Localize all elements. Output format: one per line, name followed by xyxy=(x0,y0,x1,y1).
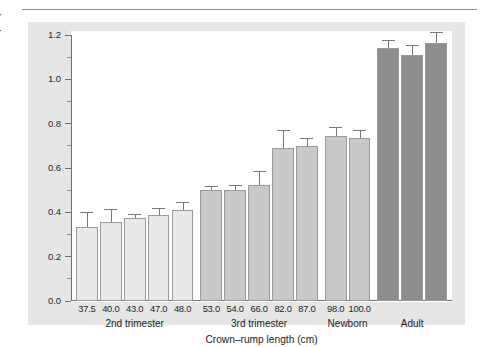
error-bar-cap xyxy=(430,32,443,33)
error-bar-cap xyxy=(176,202,189,203)
error-bar-whisker xyxy=(111,210,112,222)
bar[interactable] xyxy=(425,43,447,301)
bar[interactable] xyxy=(100,222,122,301)
bar-slot xyxy=(100,35,122,301)
x-group-label: 2nd trimester xyxy=(85,318,185,329)
error-bar-whisker xyxy=(336,128,337,136)
bar[interactable] xyxy=(248,185,270,301)
bar-slot xyxy=(377,35,399,301)
x-axis-tick-labels: 37.540.043.047.048.053.054.066.082.087.0… xyxy=(71,303,452,319)
bar[interactable] xyxy=(76,227,98,301)
error-bar-cap xyxy=(128,214,141,215)
error-bar-whisker xyxy=(283,131,284,148)
bar[interactable] xyxy=(325,136,347,301)
bar[interactable] xyxy=(124,218,146,301)
error-bar-cap xyxy=(229,185,242,186)
bar-series xyxy=(71,35,452,301)
top-divider-rule xyxy=(22,9,477,10)
y-tick-label: 0.2 xyxy=(27,251,61,262)
bar-slot xyxy=(296,35,318,301)
error-bar-whisker xyxy=(412,46,413,55)
y-tick-label: 0.8 xyxy=(27,118,61,129)
bar-slot xyxy=(349,35,371,301)
bar[interactable] xyxy=(224,190,246,301)
error-bar-whisker xyxy=(388,41,389,49)
error-bar-whisker xyxy=(183,203,184,210)
error-bar-cap xyxy=(329,127,342,128)
x-group-label: Adult xyxy=(362,318,462,329)
error-bar-whisker xyxy=(211,187,212,190)
y-tick-label: 0.0 xyxy=(27,295,61,306)
y-tick-label: 1.0 xyxy=(27,73,61,84)
x-group-label: 3rd trimester xyxy=(209,318,309,329)
x-axis-title: Crown–rump length (cm) xyxy=(71,334,452,345)
y-tick-label: 1.2 xyxy=(27,29,61,40)
x-tick-label: 48.0 xyxy=(167,303,199,314)
error-bar-cap xyxy=(205,186,218,187)
bar-slot xyxy=(76,35,98,301)
bar[interactable] xyxy=(272,148,294,301)
bar[interactable] xyxy=(172,210,194,301)
bar-slot xyxy=(200,35,222,301)
bar-slot xyxy=(172,35,194,301)
error-bar-whisker xyxy=(307,139,308,146)
error-bar-whisker xyxy=(360,131,361,138)
bar-slot xyxy=(401,35,423,301)
error-bar-cap xyxy=(277,130,290,131)
bar-slot xyxy=(425,35,447,301)
bar[interactable] xyxy=(377,48,399,301)
error-bar-whisker xyxy=(159,209,160,215)
error-bar-cap xyxy=(353,130,366,131)
error-bar-cap xyxy=(382,40,395,41)
x-tick-label: 87.0 xyxy=(291,303,323,314)
bar-slot xyxy=(148,35,170,301)
error-bar-whisker xyxy=(87,213,88,226)
bar[interactable] xyxy=(349,138,371,301)
bar-slot xyxy=(272,35,294,301)
bar-slot xyxy=(224,35,246,301)
error-bar-cap xyxy=(406,45,419,46)
bar-slot xyxy=(248,35,270,301)
bar[interactable] xyxy=(200,190,222,301)
error-bar-whisker xyxy=(235,186,236,190)
bar[interactable] xyxy=(401,55,423,301)
x-axis-group-labels: 2nd trimester3rd trimesterNewbornAdult xyxy=(71,318,452,334)
error-bar-whisker xyxy=(259,172,260,184)
y-tick-label: 0.4 xyxy=(27,206,61,217)
y-tick-label: 0.6 xyxy=(27,162,61,173)
bar[interactable] xyxy=(148,215,170,301)
chart-panel: 0.00.20.40.60.81.01.2 Bladder thickness … xyxy=(28,22,465,325)
figure-container: 0.00.20.40.60.81.01.2 Bladder thickness … xyxy=(0,0,486,347)
error-bar-whisker xyxy=(135,215,136,218)
error-bar-cap xyxy=(80,212,93,213)
error-bar-cap xyxy=(104,209,117,210)
error-bar-whisker xyxy=(436,33,437,43)
y-axis-title: Bladder thickness (cm) xyxy=(0,12,1,118)
error-bar-cap xyxy=(152,208,165,209)
error-bar-cap xyxy=(253,171,266,172)
x-tick-label: 100.0 xyxy=(344,303,376,314)
bar[interactable] xyxy=(296,146,318,301)
error-bar-cap xyxy=(300,138,313,139)
bar-slot xyxy=(325,35,347,301)
bar-slot xyxy=(124,35,146,301)
